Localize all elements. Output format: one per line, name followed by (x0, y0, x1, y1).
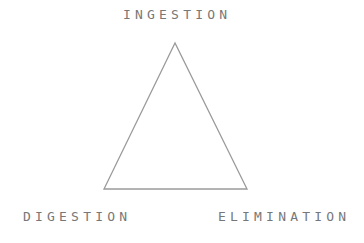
label-ingestion: INGESTION (123, 7, 231, 22)
triangle-diagram (0, 0, 364, 243)
label-digestion: DIGESTION (23, 209, 131, 224)
triangle-shape (104, 43, 247, 189)
label-elimination: ELIMINATION (218, 209, 350, 224)
